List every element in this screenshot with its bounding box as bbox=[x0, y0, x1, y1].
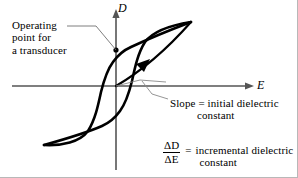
slope-annotation: Slope = initial dielectricconstant bbox=[170, 97, 279, 122]
incremental-definition-line1: incremental dielectric bbox=[196, 144, 294, 156]
operating-point-annotation: Operating point for a transducer bbox=[12, 19, 67, 56]
fraction-denominator: ΔE bbox=[164, 153, 180, 165]
x-axis bbox=[12, 82, 254, 89]
y-axis bbox=[112, 9, 119, 170]
delta-ratio-fraction: ΔD ΔE bbox=[163, 139, 180, 165]
incremental-definition-line2: constant bbox=[196, 156, 294, 168]
incremental-constant-annotation: ΔD ΔE = incremental dielectricconstant bbox=[163, 139, 293, 169]
slope-annotation-line2: constant bbox=[170, 109, 279, 121]
hysteresis-figure: D E Operating point for a transducer Slo… bbox=[0, 0, 298, 178]
fraction-numerator: ΔD bbox=[163, 140, 180, 152]
slope-annotation-line1: Slope = initial dielectric bbox=[170, 97, 279, 109]
equals-sign: = bbox=[180, 139, 195, 156]
x-axis-label: E bbox=[257, 79, 264, 91]
y-axis-label: D bbox=[118, 2, 127, 14]
slope-leader-lower bbox=[142, 81, 168, 99]
incremental-definition: incremental dielectricconstant bbox=[196, 139, 294, 169]
operating-point-leader bbox=[67, 26, 116, 50]
initial-slope-line bbox=[116, 22, 191, 86]
